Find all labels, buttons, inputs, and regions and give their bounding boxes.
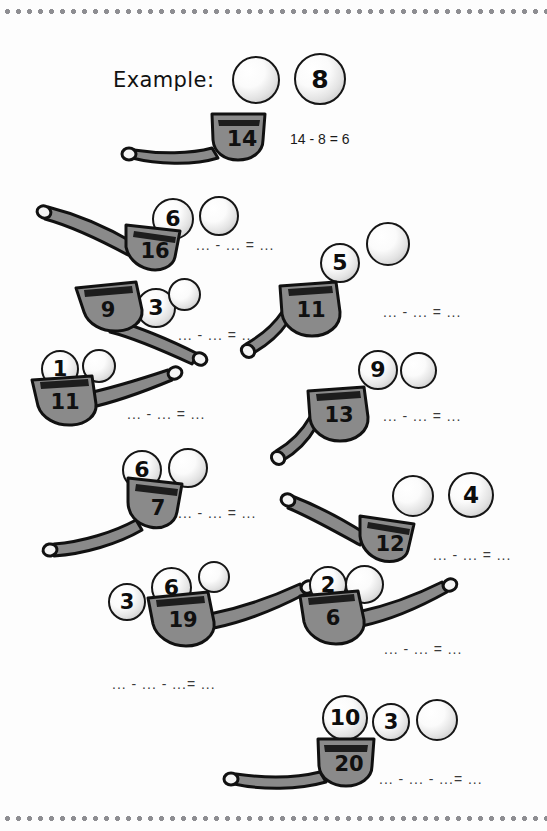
- problem-4-pipe-7: 7: [40, 470, 190, 555]
- problem-8-ball-0: 3: [108, 583, 146, 621]
- problem-8-answer[interactable]: ... - ... - ...= ...: [112, 676, 216, 692]
- problem-7-answer[interactable]: ... - ... = ...: [433, 547, 511, 563]
- problem-5-ball-1: [366, 222, 410, 266]
- example-blank-ball: [232, 56, 280, 104]
- problem-7-pipe-12: 12: [282, 490, 437, 560]
- problem-10-pipe-20: 20: [222, 736, 387, 791]
- example-equation: 14 - 8 = 6: [290, 131, 350, 147]
- problem-3-answer[interactable]: ... - ... = ...: [127, 406, 205, 422]
- top-dotted-border: [0, 9, 547, 14]
- worksheet-page: Example: 8 14 14 - 8 = 6 6 16 ... - ...: [0, 0, 547, 831]
- example-ball-8: 8: [294, 53, 346, 105]
- problem-7-ball-1: 4: [448, 472, 494, 518]
- problem-2-pipe-9: 9: [62, 276, 222, 361]
- example-pipe-14: 14: [120, 110, 280, 165]
- problem-6-answer[interactable]: ... - ... = ...: [383, 408, 461, 424]
- problem-5-ball-0: 5: [320, 243, 360, 283]
- problem-5-answer[interactable]: ... - ... = ...: [383, 304, 461, 320]
- problem-4-answer[interactable]: ... - ... = ...: [178, 505, 256, 521]
- problem-10-ball-0: 10: [322, 695, 368, 741]
- bottom-dotted-border: [0, 816, 547, 821]
- problem-10-answer[interactable]: ... - ... - ...= ...: [379, 771, 483, 787]
- problem-8-pipe-19: 19: [142, 578, 317, 653]
- problem-10-ball-2: [416, 699, 458, 741]
- problem-1-answer[interactable]: ... - ... = ...: [196, 237, 274, 253]
- example-label: Example:: [113, 68, 214, 92]
- problem-1-pipe-16: 16: [38, 203, 193, 268]
- problem-5-pipe-11: 11: [240, 278, 385, 358]
- problem-9-answer[interactable]: ... - ... = ...: [384, 641, 462, 657]
- problem-1-ball-1: [199, 196, 239, 236]
